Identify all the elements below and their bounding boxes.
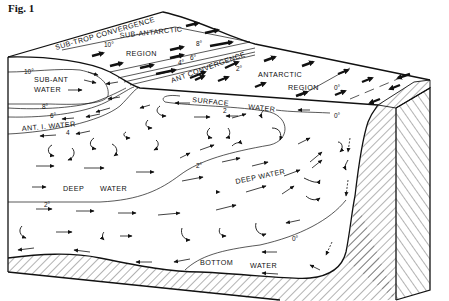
isotherm-6-surface: 6° xyxy=(190,54,197,61)
isotherm-8-surface: 8° xyxy=(196,40,203,47)
label-antarctic: ANTARCTIC xyxy=(258,70,302,79)
label-bottom-water-2: WATER xyxy=(250,261,277,270)
ocean-block-diagram: SUB-TROP CONVERGENCE SUB-ANTARCTIC REGIO… xyxy=(0,0,449,301)
isotherm-10-side: 10° xyxy=(24,68,34,75)
isotherm-6-side: 6° xyxy=(50,112,57,119)
label-sub-antarctic-region: REGION xyxy=(126,49,157,58)
sea-floor xyxy=(8,196,396,301)
label-sub-ant-water-1: SUB-ANT xyxy=(34,75,69,84)
isotherm-10-surface: 10° xyxy=(104,41,114,48)
label-bottom-water-1: BOTTOM xyxy=(200,258,233,267)
label-deep-water-left-2: WATER xyxy=(100,184,127,193)
isotherm-2-surface-water: 2 xyxy=(223,107,227,114)
label-deep-water-right: DEEP WATER xyxy=(235,167,286,186)
label-surface-water-1: SURFACE xyxy=(192,95,229,108)
label-sub-ant-water-2: WATER xyxy=(34,85,61,94)
isotherm-4-side: 4 xyxy=(66,129,70,136)
label-antarctic-region: REGION xyxy=(288,83,319,92)
isotherm-0-surface: 0° xyxy=(334,84,341,91)
isotherm-2-surface: 2° xyxy=(236,65,243,72)
isotherm-0-surface-water: 0° xyxy=(334,112,341,119)
label-surface-water-2: WATER xyxy=(248,102,276,114)
isotherm-2-deep-left: 2° xyxy=(44,201,51,208)
isotherm-2-deep-mid: 2° xyxy=(196,162,203,169)
interior-current-arrows xyxy=(18,72,350,274)
isotherm-8-side: 8° xyxy=(42,103,49,110)
label-deep-water-left-1: DEEP xyxy=(63,184,84,193)
isotherm-4-surface: 4° xyxy=(178,59,185,66)
isotherm-0-bottom: 0° xyxy=(292,235,299,242)
